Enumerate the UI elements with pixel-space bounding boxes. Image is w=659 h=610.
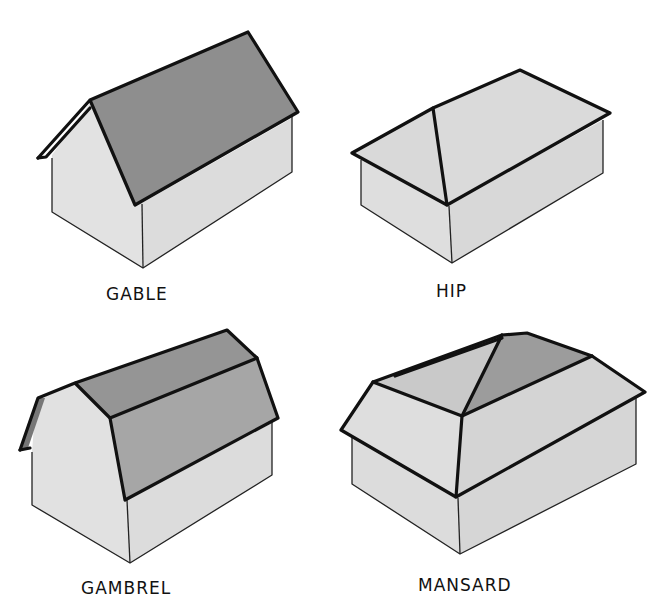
- gable-house-illustration: [38, 32, 298, 268]
- roof-types-diagram: [0, 0, 659, 610]
- gambrel-house-illustration: [20, 330, 278, 563]
- gambrel-label: GAMBREL: [81, 578, 171, 598]
- mansard-house-illustration: [341, 333, 645, 554]
- gable-label: GABLE: [106, 284, 168, 304]
- hip-house-illustration: [352, 70, 610, 263]
- mansard-label: MANSARD: [418, 575, 512, 595]
- hip-label: HIP: [436, 281, 467, 301]
